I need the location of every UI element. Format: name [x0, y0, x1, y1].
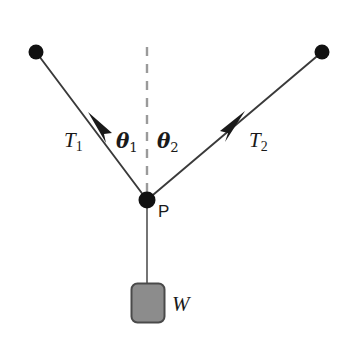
diagram-vector-layer: [0, 0, 355, 339]
label-weight: W: [172, 294, 190, 315]
label-tension-right-symbol: T: [249, 128, 261, 152]
label-theta-right-symbol: θ: [157, 129, 170, 153]
label-tension-left: T1: [64, 130, 83, 154]
anchor-node-left: [29, 45, 44, 60]
weight-block: [132, 284, 165, 323]
junction-node-p: [139, 192, 156, 209]
label-theta-left-subscript: 1: [129, 140, 137, 155]
label-tension-left-symbol: T: [64, 128, 76, 152]
label-theta-right-subscript: 2: [170, 140, 178, 155]
physics-diagram-canvas: T1 θ1 θ2 T2 P W: [0, 0, 355, 339]
cord-left-line: [36, 52, 147, 200]
label-tension-right-subscript: 2: [261, 139, 268, 154]
label-theta-right: θ2: [157, 131, 179, 154]
tension-right-arrowhead: [220, 111, 245, 142]
label-tension-right: T2: [249, 130, 268, 154]
label-point-p: P: [158, 203, 169, 220]
label-theta-left: θ1: [116, 131, 138, 154]
anchor-node-right: [315, 45, 330, 60]
label-tension-left-subscript: 1: [76, 139, 83, 154]
label-theta-left-symbol: θ: [116, 129, 129, 153]
